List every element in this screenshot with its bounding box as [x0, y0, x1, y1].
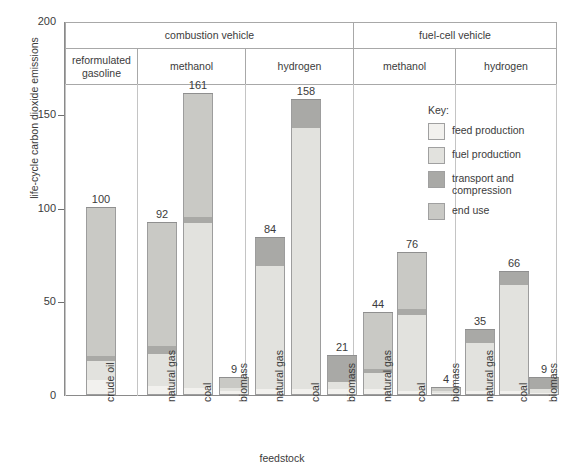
x-tick-label: coal: [309, 383, 321, 402]
bar-segment-end-use: [147, 223, 177, 346]
x-tick-label: biomass: [547, 363, 559, 402]
legend-swatch-transport-and-compression: [428, 171, 445, 188]
bar-segment-transport-and-compression: [465, 330, 495, 343]
legend-label-feed-production: feed production: [452, 123, 524, 136]
bar-coal-2: [183, 93, 213, 395]
y-axis-ticks: 200 150 100 50 0: [22, 0, 56, 471]
plot-div-1: [137, 84, 138, 396]
x-tick-label: biomass: [345, 363, 357, 402]
y-tick-100: 100: [22, 203, 56, 214]
header-div-end: [556, 22, 557, 84]
bar-segment-transport-and-compression: [499, 272, 529, 285]
bar-value-label: 84: [243, 223, 297, 235]
header-methanol-fuelcell: methanol: [354, 49, 455, 84]
bar-segment-end-use: [183, 94, 213, 217]
bar-segment-transport-and-compression: [255, 238, 285, 266]
legend-label-transport-and-compression: transport and compression: [452, 171, 548, 196]
x-tick-label: natural gas: [165, 350, 177, 402]
bar-segment-end-use: [397, 253, 427, 309]
header-hydrogen-combustion: hydrogen: [246, 49, 353, 84]
bar-value-label: 66: [487, 257, 541, 269]
legend-label-fuel-production: fuel production: [452, 147, 521, 160]
y-tick-0: 0: [22, 390, 56, 401]
bar-segment-transport-and-compression: [291, 100, 321, 128]
legend-item-fuel-production: fuel production: [428, 147, 548, 164]
plot-div-0: [65, 84, 66, 396]
y-tick-150: 150: [22, 109, 56, 120]
bar-segment-fuel-production: [499, 285, 529, 392]
bar-value-label: 100: [74, 193, 128, 205]
bar-segment-end-use: [86, 208, 116, 356]
legend-label-end-use: end use: [452, 203, 489, 216]
header-fuel-cell-vehicle: fuel-cell vehicle: [354, 23, 556, 48]
x-tick-label: crude oil: [104, 362, 116, 402]
bar-value-label: 158: [279, 85, 333, 97]
plot-div-2: [245, 84, 246, 396]
x-tick-label: natural gas: [273, 350, 285, 402]
x-tick-label: biomass: [237, 363, 249, 402]
x-tick-label: natural gas: [381, 350, 393, 402]
header-combustion-vehicle: combustion vehicle: [66, 23, 353, 48]
legend-item-feed-production: feed production: [428, 123, 548, 140]
header-reformulated-gasoline: reformulated gasoline: [66, 49, 137, 84]
chart-legend: Key: feed production fuel production tra…: [428, 104, 548, 227]
bar-value-label: 9: [207, 363, 261, 375]
x-tick-label: biomass: [449, 363, 461, 402]
x-tick-label: coal: [415, 383, 427, 402]
y-tick-50: 50: [22, 296, 56, 307]
bar-value-label: 76: [385, 238, 439, 250]
bar-value-label: 21: [315, 341, 369, 353]
legend-item-transport-and-compression: transport and compression: [428, 171, 548, 196]
header-hydrogen-fuelcell: hydrogen: [456, 49, 556, 84]
legend-title: Key:: [428, 104, 548, 116]
x-tick-label: coal: [201, 383, 213, 402]
legend-swatch-fuel-production: [428, 147, 445, 164]
plot-div-5: [556, 84, 557, 396]
bar-value-label: 92: [135, 208, 189, 220]
y-tick-200: 200: [22, 16, 56, 27]
legend-swatch-end-use: [428, 203, 445, 220]
x-axis-title: feedstock: [0, 452, 564, 464]
x-tick-label: coal: [517, 383, 529, 402]
x-tick-label: natural gas: [483, 350, 495, 402]
chart-figure: life-cycle carbon dioxide emissions 200 …: [0, 0, 564, 471]
bar-coal-11: [499, 271, 529, 395]
bar-value-label: 161: [171, 79, 225, 91]
legend-item-end-use: end use: [428, 203, 548, 220]
legend-swatch-feed-production: [428, 123, 445, 140]
